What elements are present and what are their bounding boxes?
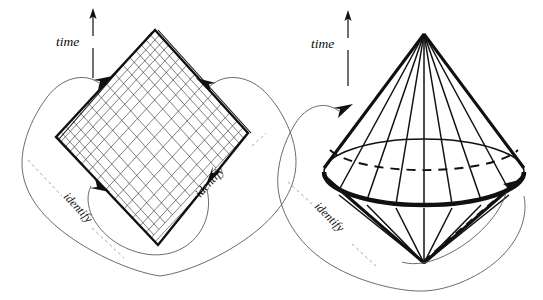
topology-figure: time [0,0,543,300]
time-label-right: time [311,36,334,51]
time-label-left: time [56,34,79,49]
figure-background [0,0,543,300]
